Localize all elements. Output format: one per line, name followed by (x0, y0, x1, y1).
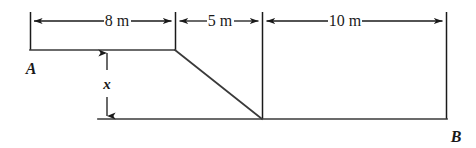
dimension-label-10m: 10 m (329, 12, 362, 29)
slope-line (175, 50, 262, 119)
extension-lines (31, 12, 447, 119)
profile-geometry (30, 50, 447, 119)
vertical-dimension-label: x (102, 76, 111, 92)
point-label-a: A (25, 60, 37, 77)
point-label-b: B (450, 128, 462, 145)
engineering-diagram: 8 m 5 m 10 m x A B (0, 0, 476, 148)
diagram-canvas: 8 m 5 m 10 m x A B (0, 0, 476, 148)
dimension-label-5m: 5 m (208, 12, 233, 29)
dimension-label-8m: 8 m (105, 12, 130, 29)
